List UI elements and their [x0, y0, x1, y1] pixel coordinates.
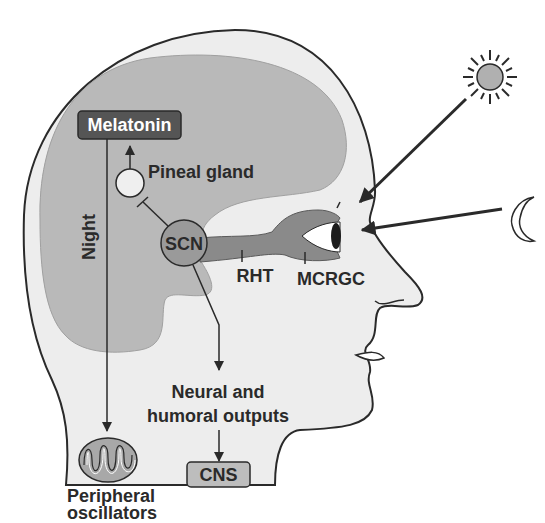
peripheral-label-line2: oscillators [67, 503, 157, 523]
cns-label: CNS [199, 465, 237, 485]
sun-icon [463, 50, 517, 104]
sunlight-arrow [360, 99, 466, 202]
scn-label: SCN [165, 234, 203, 254]
neural-outputs-label-line1: Neural and [171, 382, 264, 402]
mcrgc-label: MCRGC [297, 269, 365, 289]
circadian-diagram: SCN Pineal gland Melatonin Night RHT MCR… [0, 0, 545, 523]
crescent-moon-icon [512, 197, 534, 241]
pineal-gland-label: Pineal gland [148, 162, 254, 182]
mitochondrion-icon [79, 438, 137, 482]
moonlight-arrow [362, 209, 502, 230]
neural-outputs-label-line2: humoral outputs [147, 406, 289, 426]
pineal-gland-node [116, 169, 144, 197]
melatonin-label: Melatonin [88, 115, 172, 135]
night-label: Night [79, 214, 99, 260]
rht-label: RHT [237, 266, 274, 286]
